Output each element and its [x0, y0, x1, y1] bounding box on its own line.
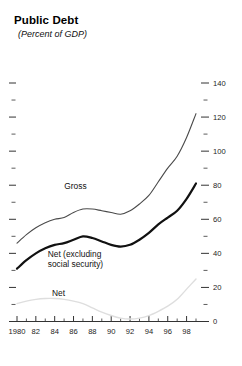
series-line-net-excluding-social-security — [17, 184, 196, 269]
x-axis-ticks — [17, 316, 196, 322]
series-line-gross — [17, 114, 196, 243]
x-axis-tick-label: 84 — [50, 327, 58, 336]
y-axis-tick-label: 40 — [213, 249, 221, 258]
series-label-line-2: social security) — [48, 259, 104, 269]
series-label-net-excluding-social-security: Net (excludingsocial security) — [48, 249, 104, 269]
y-axis-tick-label: 120 — [213, 113, 226, 122]
y-axis-tick-label: 20 — [213, 283, 221, 292]
x-axis-tick-label: 96 — [164, 327, 172, 336]
y-axis-left-ticks — [9, 83, 16, 322]
y-axis-tick-label: 0 — [213, 317, 217, 326]
x-axis-tick-label: 92 — [126, 327, 134, 336]
x-axis-tick-label: 86 — [69, 327, 77, 336]
x-axis-tick-label: 1980 — [9, 327, 26, 336]
x-axis-labels: 1980828486889092949698 — [9, 327, 191, 336]
series-label-net: Net — [52, 288, 66, 298]
chart-plot-area: 020406080100120140 198082848688909294969… — [0, 0, 242, 366]
x-axis-tick-label: 94 — [145, 327, 153, 336]
y-axis-right-labels: 020406080100120140 — [213, 79, 226, 326]
series-label-gross: Gross — [64, 181, 86, 191]
y-axis-tick-label: 60 — [213, 215, 221, 224]
public-debt-chart-figure: Public Debt (Percent of GDP) 02040608010… — [0, 0, 242, 366]
y-axis-right-ticks — [201, 83, 209, 322]
y-axis-tick-label: 140 — [213, 79, 226, 88]
x-axis-tick-label: 82 — [32, 327, 40, 336]
y-axis-tick-label: 100 — [213, 147, 226, 156]
series-label-line-1: Net (excluding — [48, 249, 102, 259]
x-axis-tick-label: 90 — [107, 327, 115, 336]
series-line-net — [17, 279, 196, 319]
x-axis-tick-label: 88 — [88, 327, 96, 336]
chart-svg: 020406080100120140 198082848688909294969… — [0, 0, 242, 366]
x-axis-tick-label: 98 — [182, 327, 190, 336]
y-axis-tick-label: 80 — [213, 181, 221, 190]
series-lines — [17, 114, 196, 319]
